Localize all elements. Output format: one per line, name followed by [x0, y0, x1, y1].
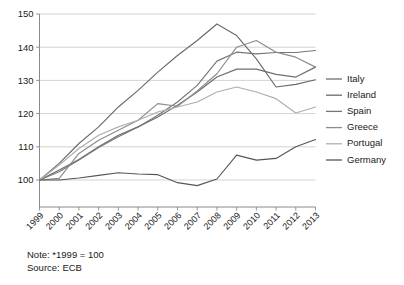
x-tick-label: 2013	[300, 210, 321, 231]
legend-item-ireland[interactable]: Ireland	[326, 89, 376, 100]
x-tick-label: 2012	[280, 210, 301, 231]
x-tick-label: 2008	[202, 210, 223, 231]
chart-legend: ItalyIrelandSpainGreecePortugalGermany	[326, 73, 386, 165]
x-tick-label: 2010	[241, 210, 262, 231]
legend-label-greece: Greece	[347, 121, 378, 132]
chart-footnotes: Note: *1999 = 100 Source: ECB	[27, 249, 104, 274]
note-source-line: Source: ECB	[27, 262, 104, 275]
x-tick-label: 2000	[44, 210, 65, 231]
series-line-spain	[40, 51, 316, 180]
legend-item-germany[interactable]: Germany	[326, 154, 386, 165]
y-tick-label: 110	[18, 141, 33, 152]
y-tick-label: 150	[18, 8, 34, 19]
legend-label-ireland: Ireland	[347, 89, 376, 100]
legend-item-portugal[interactable]: Portugal	[326, 137, 382, 148]
y-tick-label: 140	[18, 42, 34, 53]
x-tick-label: 2001	[64, 210, 85, 231]
legend-item-spain[interactable]: Spain	[326, 105, 371, 116]
x-tick-label: 2003	[103, 210, 124, 231]
y-tick-label: 100	[18, 174, 34, 185]
x-tick-label: 2005	[142, 210, 163, 231]
note-basis-line: Note: *1999 = 100	[27, 249, 104, 262]
x-tick-label: 1999	[24, 210, 45, 231]
y-tick-label: 120	[18, 108, 34, 119]
legend-label-spain: Spain	[347, 105, 371, 116]
x-tick-label: 2006	[162, 210, 183, 231]
legend-label-germany: Germany	[347, 154, 386, 165]
x-tick-label: 2004	[123, 210, 144, 231]
y-tick-label: 130	[18, 75, 34, 86]
legend-label-italy: Italy	[347, 73, 365, 84]
x-tick-label: 2011	[261, 210, 282, 231]
legend-item-italy[interactable]: Italy	[326, 73, 365, 84]
x-axis-ticks: 1999200020012002200320042005200620072008…	[24, 207, 321, 232]
x-tick-label: 2002	[83, 210, 104, 231]
legend-item-greece[interactable]: Greece	[326, 121, 378, 132]
series-line-portugal	[40, 87, 316, 180]
x-tick-label: 2009	[221, 210, 242, 231]
chart-figure: 1001101201301401501999200020012002200320…	[0, 0, 404, 285]
line-chart: 1001101201301401501999200020012002200320…	[0, 0, 404, 285]
series-group	[40, 24, 316, 186]
legend-label-portugal: Portugal	[347, 137, 382, 148]
x-tick-label: 2007	[182, 210, 203, 231]
